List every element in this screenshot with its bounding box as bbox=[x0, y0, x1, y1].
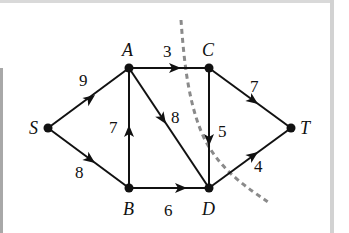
node-b bbox=[125, 184, 134, 193]
edge-a-d bbox=[129, 68, 209, 188]
capacity-a-d: 8 bbox=[171, 108, 180, 127]
flow-network-diagram: S A C B D T 9 8 7 3 8 6 5 7 4 bbox=[0, 0, 349, 233]
node-t bbox=[287, 124, 296, 133]
node-s bbox=[44, 124, 53, 133]
node-label-d: D bbox=[201, 199, 215, 219]
capacity-s-b: 8 bbox=[75, 163, 84, 182]
node-label-c: C bbox=[202, 40, 215, 60]
capacity-s-a: 9 bbox=[79, 71, 88, 90]
node-label-s: S bbox=[29, 118, 38, 138]
node-label-b: B bbox=[123, 199, 134, 219]
node-label-t: T bbox=[300, 118, 312, 138]
capacity-d-t: 4 bbox=[254, 157, 263, 176]
capacity-c-d: 5 bbox=[218, 122, 227, 141]
node-c bbox=[205, 64, 214, 73]
capacity-a-c: 3 bbox=[163, 42, 172, 61]
capacity-b-d: 6 bbox=[164, 201, 173, 220]
capacity-c-t: 7 bbox=[250, 77, 259, 96]
node-a bbox=[125, 64, 134, 73]
node-label-a: A bbox=[121, 40, 134, 60]
capacity-b-a: 7 bbox=[109, 118, 118, 137]
node-d bbox=[205, 184, 214, 193]
arrow-a-d-icon bbox=[155, 111, 170, 127]
